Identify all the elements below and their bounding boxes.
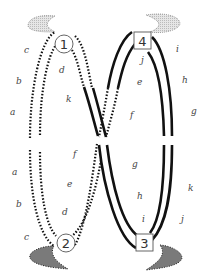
solid-strand-outer-top-right bbox=[152, 37, 172, 136]
label-f-inner-bottom: f bbox=[72, 149, 78, 159]
label-h-inner-bottom: h bbox=[137, 191, 143, 201]
node-3-label: 3 bbox=[140, 236, 148, 251]
label-e-inner-bottom: e bbox=[67, 179, 72, 189]
node-4: 4 bbox=[134, 32, 151, 49]
label-f-inner-right-top: f bbox=[129, 110, 135, 120]
node-1: 1 bbox=[55, 35, 73, 53]
shaded-region-top-left bbox=[28, 15, 55, 32]
node-1-label: 1 bbox=[60, 37, 68, 52]
label-a-top-left: a bbox=[10, 107, 15, 117]
label-e-inner-right-top: e bbox=[137, 77, 142, 87]
solid-strand-inner-top-right bbox=[148, 52, 164, 136]
dotted-strand-inner-bottom-right bbox=[72, 160, 101, 236]
diagram: 1 4 2 3 c b a a b c d k f e d j e f g h … bbox=[0, 0, 201, 273]
label-b-bottom-left: b bbox=[16, 199, 22, 209]
label-g-right-top: g bbox=[191, 106, 197, 116]
label-d-inner-top: d bbox=[59, 65, 65, 75]
label-a-bottom-left: a bbox=[12, 167, 17, 177]
label-i-inner-bottom: i bbox=[142, 214, 145, 224]
node-3: 3 bbox=[136, 234, 153, 251]
dotted-strand-inner-top-right bbox=[72, 50, 84, 87]
node-2-label: 2 bbox=[62, 236, 70, 251]
label-j-right-bottom: j bbox=[179, 214, 184, 224]
dotted-strand-outer-bottom-left bbox=[30, 150, 54, 246]
label-b-top-left: b bbox=[16, 76, 22, 86]
node-4-label: 4 bbox=[138, 34, 146, 49]
label-c-top-left: c bbox=[24, 45, 29, 55]
label-i-right-top: i bbox=[176, 44, 179, 54]
label-j-inner-top: j bbox=[139, 55, 144, 65]
shaded-region-top-right bbox=[146, 14, 180, 33]
label-c-bottom-left: c bbox=[24, 232, 29, 242]
label-k-inner-top: k bbox=[66, 94, 71, 104]
dotted-strand-inner-top-left bbox=[40, 45, 56, 135]
node-2: 2 bbox=[57, 234, 75, 252]
dotted-strand-inner-bottom-left bbox=[40, 152, 56, 236]
label-k-right-bottom: k bbox=[188, 183, 193, 193]
label-h-right-top: h bbox=[182, 75, 188, 85]
label-g-inner-bottom: g bbox=[132, 159, 138, 169]
solid-strand-inner-top-left bbox=[118, 44, 135, 88]
label-d-inner-bottom: d bbox=[62, 207, 68, 217]
